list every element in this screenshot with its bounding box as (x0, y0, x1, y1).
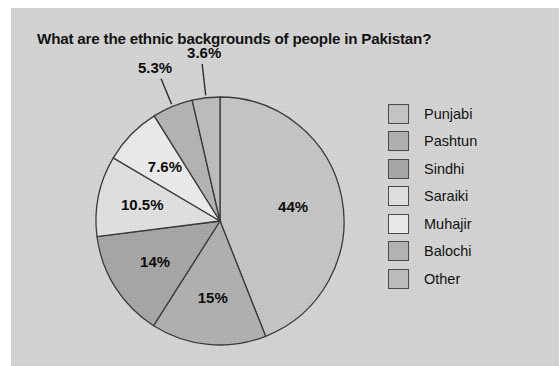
legend-item-label: Muhajir (424, 216, 472, 232)
legend-item-label: Pashtun (424, 133, 477, 149)
legend-item-label: Sindhi (424, 161, 464, 177)
chart-panel: What are the ethnic backgrounds of peopl… (11, 8, 559, 366)
pie-slice-label: 5.3% (138, 59, 172, 76)
pie-slices-group (96, 97, 344, 345)
pie-slice-label: 14% (140, 253, 170, 270)
figure-container: What are the ethnic backgrounds of peopl… (0, 0, 559, 366)
legend-item-label: Balochi (424, 243, 472, 259)
pie-slice-label: 10.5% (121, 196, 164, 213)
chart-legend: PunjabiPashtunSindhiSaraikiMuhajirBaloch… (388, 100, 538, 293)
legend-swatch-icon (388, 104, 409, 124)
legend-swatch-icon (388, 269, 409, 289)
pie-slice-label: 3.6% (187, 44, 221, 61)
legend-item-label: Punjabi (424, 106, 472, 122)
legend-item[interactable]: Sindhi (388, 155, 538, 183)
pie-label-leader-line (202, 64, 206, 95)
pie-slice-label: 15% (198, 289, 228, 306)
legend-item[interactable]: Saraiki (388, 183, 538, 211)
legend-swatch-icon (388, 159, 409, 179)
pie-slice-label: 7.6% (148, 158, 182, 175)
pie-slice-label: 44% (278, 198, 308, 215)
legend-item[interactable]: Muhajir (388, 210, 538, 238)
legend-item-label: Other (424, 271, 460, 287)
legend-swatch-icon (388, 214, 409, 234)
legend-item[interactable]: Punjabi (388, 100, 538, 128)
legend-swatch-icon (388, 131, 409, 151)
pie-label-leader-line (161, 79, 172, 104)
legend-item[interactable]: Other (388, 265, 538, 293)
legend-swatch-icon (388, 186, 409, 206)
legend-swatch-icon (388, 241, 409, 261)
legend-item-label: Saraiki (424, 188, 468, 204)
legend-item[interactable]: Pashtun (388, 128, 538, 156)
legend-item[interactable]: Balochi (388, 238, 538, 266)
